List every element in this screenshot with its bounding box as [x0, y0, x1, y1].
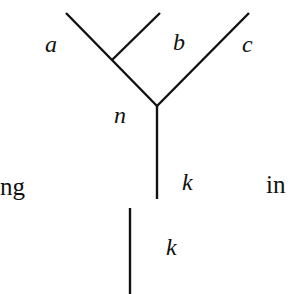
edge-a [66, 13, 157, 106]
text-in: in [266, 172, 285, 197]
label-c: c [242, 32, 253, 56]
label-n: n [114, 103, 126, 127]
label-a: a [45, 32, 57, 56]
edge-b [112, 13, 160, 60]
label-k-top: k [182, 170, 193, 194]
text-ng: ng [0, 174, 25, 199]
edge-c [157, 13, 249, 106]
tree-diagram: a b c n k ng in k [0, 0, 290, 294]
label-b: b [173, 30, 185, 54]
label-k-bottom: k [166, 235, 177, 259]
